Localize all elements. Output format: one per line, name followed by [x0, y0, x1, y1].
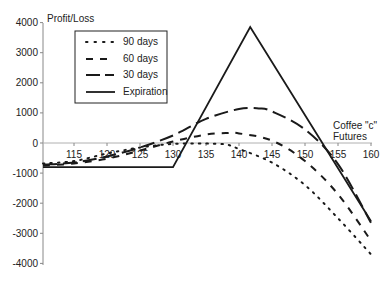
x-tick-label: 140 — [231, 149, 248, 160]
series-30-days — [43, 108, 371, 223]
legend-label-expiration: Expiration — [123, 86, 167, 97]
y-axis-title: Profit/Loss — [47, 13, 94, 24]
x-axis-title-line2: Futures — [333, 131, 367, 142]
y-tick-label: 1000 — [16, 107, 39, 118]
y-tick-label: -3000 — [12, 228, 38, 239]
y-axis-ticks: 40003000200010000-1000-2000-3000-4000 — [12, 17, 43, 269]
legend-label-90-days: 90 days — [123, 36, 158, 47]
x-tick-label: 150 — [297, 149, 314, 160]
profit-loss-chart: 40003000200010000-1000-2000-3000-4000 11… — [0, 0, 387, 283]
x-tick-label: 135 — [198, 149, 215, 160]
y-tick-label: -1000 — [12, 168, 38, 179]
y-tick-label: 0 — [32, 138, 38, 149]
x-tick-label: 160 — [363, 149, 380, 160]
y-tick-label: -4000 — [12, 258, 38, 269]
x-tick-label: 145 — [264, 149, 281, 160]
legend-label-30-days: 30 days — [123, 69, 158, 80]
y-tick-label: 4000 — [16, 17, 39, 28]
y-tick-label: -2000 — [12, 198, 38, 209]
legend-label-60-days: 60 days — [123, 53, 158, 64]
y-tick-label: 3000 — [16, 47, 39, 58]
x-tick-label: 115 — [66, 149, 82, 160]
x-axis-title-line1: Coffee "c" — [333, 120, 378, 131]
legend: 90 days 60 days 30 days Expiration — [75, 31, 167, 103]
y-tick-label: 2000 — [16, 77, 39, 88]
